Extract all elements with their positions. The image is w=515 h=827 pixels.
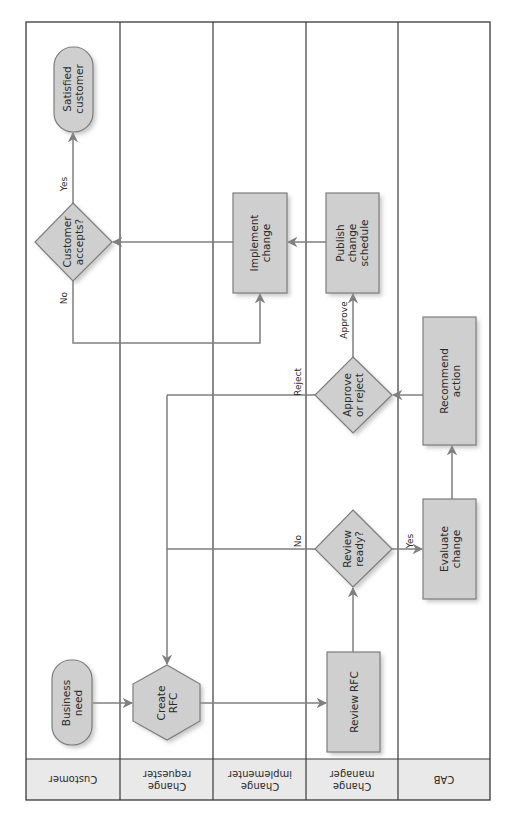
svg-text:Satisfied: Satisfied (61, 66, 73, 111)
lane-header-change-requester: Change requester (142, 769, 191, 792)
svg-text:Yes: Yes (59, 176, 69, 192)
svg-text:Review: Review (341, 530, 353, 568)
swimlane-diagram: Customer Change requester Change impleme… (0, 0, 515, 827)
svg-text:customer: customer (73, 64, 85, 114)
svg-text:schedule: schedule (358, 219, 370, 266)
svg-text:requester: requester (142, 769, 191, 780)
node-satisfied-customer[interactable]: Satisfied customer (54, 47, 96, 135)
svg-text:No: No (293, 534, 303, 547)
svg-text:Publish: Publish (334, 224, 346, 261)
node-customer-accepts[interactable]: Customer accepts? (35, 203, 115, 284)
svg-text:Customer: Customer (48, 774, 97, 785)
svg-text:accepts?: accepts? (73, 219, 85, 265)
node-review-ready[interactable]: Review ready? (315, 510, 395, 590)
node-recommend-action[interactable]: Recommend action (423, 317, 479, 448)
svg-text:Change: Change (148, 781, 186, 792)
svg-text:Yes: Yes (405, 533, 415, 549)
svg-text:No: No (59, 291, 69, 304)
svg-text:CAB: CAB (434, 774, 455, 785)
node-evaluate-change[interactable]: Evaluate change (423, 499, 479, 602)
svg-text:Review RFC: Review RFC (348, 671, 360, 732)
svg-text:Approve: Approve (339, 301, 349, 339)
svg-text:need: need (72, 690, 84, 716)
svg-text:change: change (260, 224, 272, 263)
label-approve: Approve (339, 301, 349, 339)
lane-header-customer: Customer (48, 774, 97, 785)
node-review-rfc[interactable]: Review RFC (327, 652, 383, 755)
svg-text:Recommend: Recommend (438, 348, 450, 414)
svg-text:change: change (346, 224, 358, 263)
node-business-need[interactable]: Business need (52, 660, 95, 748)
svg-text:Evaluate: Evaluate (438, 526, 450, 572)
svg-text:ready?: ready? (353, 531, 365, 566)
label-review-no: No (293, 534, 303, 547)
svg-text:Create: Create (155, 686, 167, 721)
label-accept-no: No (59, 291, 69, 304)
diagram-frame (26, 22, 490, 800)
lane-header-change-manager: Change manager (329, 769, 375, 792)
lane-header-cab: CAB (434, 774, 455, 785)
svg-text:Change: Change (333, 781, 371, 792)
svg-text:Implement: Implement (248, 215, 260, 272)
node-approve-or-reject[interactable]: Approve or reject (315, 357, 395, 436)
svg-text:change: change (450, 530, 462, 569)
svg-text:action: action (450, 365, 462, 397)
svg-text:Customer: Customer (61, 216, 73, 268)
svg-text:Change: Change (241, 781, 279, 792)
svg-text:manager: manager (329, 769, 375, 780)
label-reject: Reject (293, 368, 303, 396)
node-create-rfc[interactable]: Create RFC (133, 665, 203, 743)
svg-text:implementer: implementer (227, 769, 292, 780)
node-publish-change-schedule[interactable]: Publish change schedule (326, 193, 382, 296)
label-review-yes: Yes (405, 533, 415, 549)
svg-text:Business: Business (60, 680, 72, 726)
svg-text:or reject: or reject (353, 373, 365, 417)
edge-review-ready-no (167, 549, 315, 664)
edge-accepts-no (73, 281, 260, 343)
label-accept-yes: Yes (59, 176, 69, 192)
node-implement-change[interactable]: Implement change (233, 193, 290, 296)
svg-text:Reject: Reject (293, 368, 303, 396)
svg-text:Approve: Approve (341, 373, 353, 417)
svg-text:RFC: RFC (167, 693, 179, 714)
